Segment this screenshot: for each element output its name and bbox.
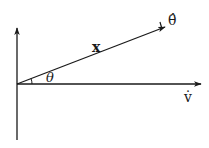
theta-label: θ	[46, 70, 54, 85]
vector-diagram: θ̂ x θ v̇	[0, 0, 209, 148]
vector-x	[17, 27, 165, 84]
angle-arc	[31, 79, 32, 85]
v-dot-label: v̇	[183, 89, 192, 105]
theta-hat-label: θ̂	[168, 12, 176, 28]
x-label: x	[92, 39, 101, 55]
